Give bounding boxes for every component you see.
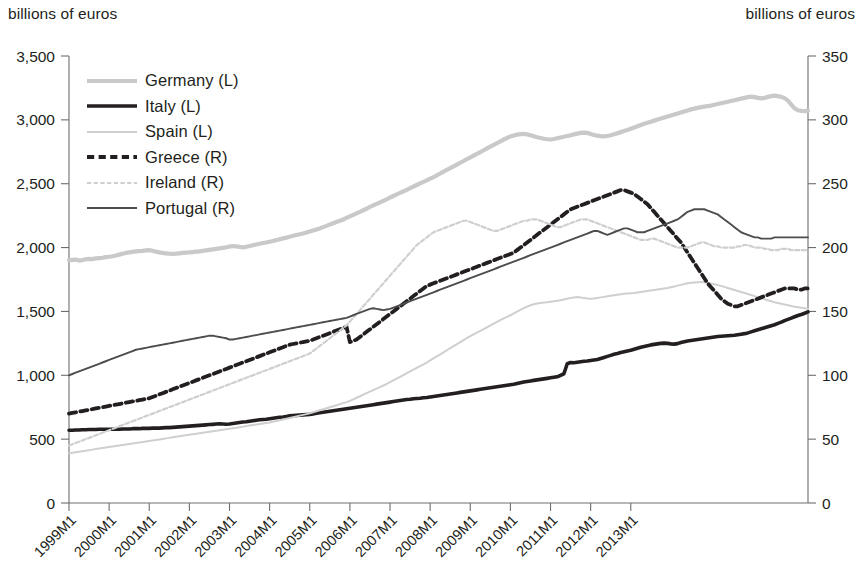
- legend-swatch-icon: [86, 201, 138, 215]
- legend-swatch-icon: [86, 150, 138, 164]
- legend-swatch-icon: [86, 125, 138, 139]
- legend-swatch-icon: [86, 176, 138, 190]
- x-tick-label: 2008M1: [392, 512, 440, 560]
- left-axis-ticks: 05001,0001,5002,0002,5003,0003,500: [16, 48, 69, 512]
- chart-figure: billions of euros billions of euros 0500…: [0, 0, 861, 582]
- legend-label: Germany (L): [145, 71, 239, 90]
- legend-label: Spain (L): [145, 122, 213, 141]
- right-axis-ticks: 050100150200250300350: [808, 48, 848, 512]
- series-line-greece: [69, 190, 808, 414]
- legend-label: Portugal (R): [145, 199, 235, 218]
- x-tick-label: 2002M1: [151, 512, 199, 560]
- x-tick-label: 2004M1: [231, 512, 279, 560]
- x-tick-label: 2012M1: [552, 512, 600, 560]
- legend-item-spain: Spain (L): [86, 119, 239, 145]
- right-tick-label: 300: [822, 111, 848, 128]
- x-tick-label: 2006M1: [312, 512, 360, 560]
- right-tick-label: 50: [822, 431, 840, 448]
- legend-item-germany: Germany (L): [86, 68, 239, 94]
- right-tick-label: 250: [822, 175, 848, 192]
- x-tick-label: 2003M1: [191, 512, 239, 560]
- legend-item-ireland: Ireland (R): [86, 170, 239, 196]
- x-axis-ticks: 1999M12000M12001M12002M12003M12004M12005…: [31, 503, 641, 560]
- x-tick-label: 2000M1: [71, 512, 119, 560]
- x-tick-label: 1999M1: [31, 512, 79, 560]
- x-tick-label: 2011M1: [513, 512, 561, 560]
- series-line-italy: [69, 312, 808, 430]
- legend-item-portugal: Portugal (R): [86, 196, 239, 222]
- series-line-portugal: [69, 209, 808, 375]
- right-tick-label: 150: [822, 303, 848, 320]
- right-tick-label: 0: [822, 495, 831, 512]
- legend-swatch-icon: [86, 99, 138, 113]
- x-tick-label: 2007M1: [352, 512, 400, 560]
- left-tick-label: 0: [46, 495, 55, 512]
- left-tick-label: 3,500: [16, 48, 55, 65]
- legend-label: Italy (L): [145, 97, 201, 116]
- x-tick-label: 2013M1: [593, 512, 641, 560]
- right-tick-label: 200: [822, 239, 848, 256]
- x-tick-label: 2001M1: [111, 512, 159, 560]
- x-tick-label: 2009M1: [432, 512, 480, 560]
- left-tick-label: 2,500: [16, 175, 55, 192]
- left-tick-label: 2,000: [16, 239, 55, 256]
- chart-legend: Germany (L)Italy (L)Spain (L)Greece (R)I…: [86, 68, 239, 221]
- legend-label: Ireland (R): [145, 173, 224, 192]
- legend-item-italy: Italy (L): [86, 94, 239, 120]
- legend-item-greece: Greece (R): [86, 145, 239, 171]
- x-tick-label: 2005M1: [272, 512, 320, 560]
- x-tick-label: 2010M1: [472, 512, 520, 560]
- left-tick-label: 3,000: [16, 111, 55, 128]
- left-tick-label: 500: [29, 431, 55, 448]
- left-tick-label: 1,000: [16, 367, 55, 384]
- legend-swatch-icon: [86, 74, 138, 88]
- legend-label: Greece (R): [145, 148, 228, 167]
- right-tick-label: 100: [822, 367, 848, 384]
- left-tick-label: 1,500: [16, 303, 55, 320]
- right-tick-label: 350: [822, 48, 848, 65]
